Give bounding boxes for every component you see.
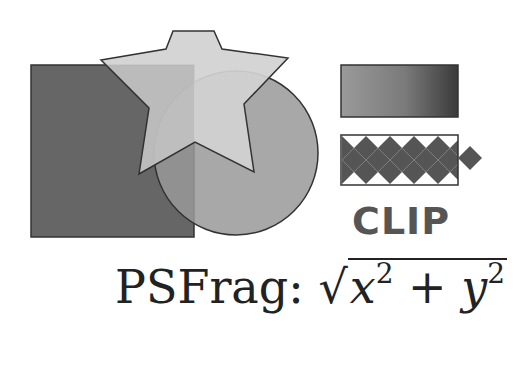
checker-rectangle xyxy=(330,135,474,185)
formula-prefix: PSFrag: xyxy=(115,260,304,314)
x-exponent: 2 xyxy=(376,257,394,290)
sqrt-symbol: √ xyxy=(318,260,347,314)
diamond-shape xyxy=(458,146,482,170)
var-x: x xyxy=(350,260,376,314)
psfrag-formula: PSFrag: √x2 + y2 xyxy=(115,258,507,314)
gradient-rectangle xyxy=(341,65,458,117)
plus-sign: + xyxy=(408,260,447,314)
y-exponent: 2 xyxy=(487,257,505,290)
clip-label: CLIP xyxy=(352,199,450,243)
radicand: x2 + y2 xyxy=(348,258,507,314)
var-y: y xyxy=(461,260,487,314)
